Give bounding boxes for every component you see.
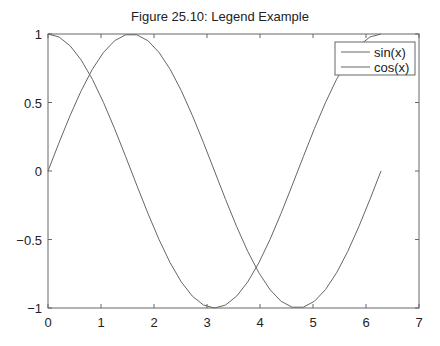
x-tick-label: 7 [415, 315, 422, 330]
plot-area: 0123456710.50−0.5−1 sin(x) cos(x) [0, 0, 440, 346]
x-tick-label: 6 [362, 315, 369, 330]
x-tick-label: 3 [203, 315, 210, 330]
legend: sin(x) cos(x) [335, 42, 415, 75]
y-tick-label: 0 [35, 164, 42, 179]
x-tick-label: 5 [309, 315, 316, 330]
data-series [48, 34, 381, 308]
y-tick-label: 0.5 [24, 96, 42, 111]
x-tick-label: 1 [97, 315, 104, 330]
series-line-sinx [48, 35, 381, 307]
y-tick-label: −1 [27, 301, 42, 316]
legend-label-cos: cos(x) [374, 60, 409, 75]
x-tick-label: 4 [256, 315, 263, 330]
legend-label-sin: sin(x) [374, 45, 406, 60]
x-tick-label: 2 [150, 315, 157, 330]
x-tick-label: 0 [44, 315, 51, 330]
y-tick-label: −0.5 [16, 233, 42, 248]
y-tick-label: 1 [35, 27, 42, 42]
